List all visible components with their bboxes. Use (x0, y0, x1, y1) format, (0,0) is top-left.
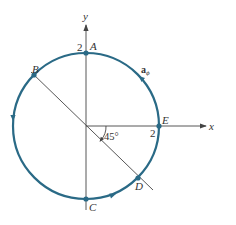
point-E-label: E (161, 114, 169, 126)
point-C-label: C (89, 201, 97, 213)
direction-arrow-left (10, 115, 15, 121)
radius-label-top: 2 (77, 41, 83, 53)
point-A-dot (83, 50, 88, 55)
point-B-label: B (32, 63, 39, 75)
angle-label: 45° (104, 131, 119, 142)
point-C-dot (83, 196, 88, 201)
point-D-label: D (134, 180, 143, 192)
diagonal-line (31, 72, 153, 190)
radius-label-right: 2 (150, 127, 156, 139)
point-E-dot (156, 123, 161, 128)
point-A-label: A (89, 40, 97, 52)
vector-a-phi-label: aϕ (141, 64, 150, 77)
diagram-canvas: y x 2 2 A B C D E aϕ 45° (0, 0, 236, 225)
x-axis-label: x (208, 120, 214, 132)
y-axis-label: y (82, 10, 88, 22)
